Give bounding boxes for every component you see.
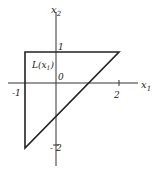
coordinate-diagram: x2 x1 0 1 -1 2 - 2 L(x1) (0, 0, 160, 172)
tick-label-y-neg2: - 2 (50, 143, 62, 153)
y-axis-label: x2 (51, 4, 62, 18)
x-axis-label: x1 (141, 79, 151, 93)
tick-label-x-2: 2 (113, 90, 120, 100)
origin-label: 0 (58, 72, 64, 82)
tick-label-y-1: 1 (58, 42, 64, 52)
tick-label-x-neg1: -1 (12, 88, 21, 98)
region-label: L(x1) (31, 60, 54, 71)
